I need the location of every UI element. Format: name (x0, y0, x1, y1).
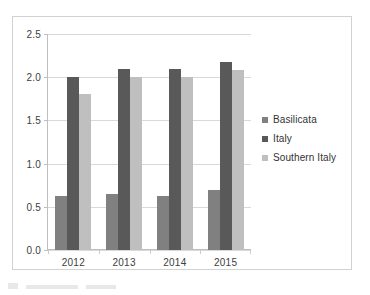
x-axis-separator-tick (200, 250, 201, 254)
x-axis-tick-label: 2013 (99, 257, 150, 268)
legend-item-label: Basilicata (273, 114, 317, 125)
y-axis-tick-label: 0.0 (26, 245, 41, 256)
legend-item-label: Southern Italy (273, 152, 336, 163)
bar-group: 2015 (200, 34, 251, 250)
legend-item[interactable]: Basilicata (262, 110, 352, 129)
bar-group: 2012 (48, 34, 99, 250)
x-axis-separator-tick (99, 250, 100, 254)
bar[interactable] (106, 194, 118, 250)
x-axis-tick-label: 2012 (48, 257, 99, 268)
bar[interactable] (208, 190, 220, 250)
y-axis-tick-label: 1.5 (26, 115, 41, 126)
bar[interactable] (67, 77, 79, 250)
x-axis-separator-tick (250, 250, 251, 254)
bar[interactable] (169, 69, 181, 250)
bar-group: 2014 (150, 34, 201, 250)
y-axis-tick-label: 1.0 (26, 158, 41, 169)
x-axis-tick-label: 2014 (150, 257, 201, 268)
y-axis-tick-label: 2.0 (26, 72, 41, 83)
bar[interactable] (157, 196, 169, 250)
scan-artifact (8, 283, 18, 289)
chart-legend: BasilicataItalySouthern Italy (262, 110, 352, 167)
plot-area: 0.00.51.01.52.02.5 2012201320142015 (48, 34, 251, 250)
bar-group: 2013 (99, 34, 150, 250)
y-axis-tick-label: 2.5 (26, 29, 41, 40)
legend-item[interactable]: Italy (262, 129, 352, 148)
legend-swatch-icon (262, 136, 268, 142)
bar[interactable] (130, 77, 142, 250)
scan-artifact (86, 285, 116, 289)
bar[interactable] (55, 196, 67, 250)
legend-item-label: Italy (273, 133, 292, 144)
bar[interactable] (232, 70, 244, 250)
x-axis-tick-label: 2015 (200, 257, 251, 268)
bar[interactable] (220, 62, 232, 250)
bar[interactable] (79, 94, 91, 250)
y-axis-tick-label: 0.5 (26, 201, 41, 212)
x-axis-separator-tick (48, 250, 49, 254)
x-axis-separator-tick (150, 250, 151, 254)
legend-swatch-icon (262, 117, 268, 123)
bar[interactable] (118, 69, 130, 250)
scan-artifact (26, 285, 78, 289)
legend-swatch-icon (262, 155, 268, 161)
legend-item[interactable]: Southern Italy (262, 148, 352, 167)
bar[interactable] (181, 77, 193, 250)
